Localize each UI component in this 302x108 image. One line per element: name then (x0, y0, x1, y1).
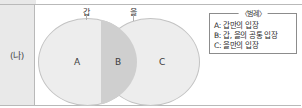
venn-diagram-screenshot: (나) A B C 갑 을 〈범례〉 A: 갑만의 입장 B: 갑, 을의 공통… (0, 0, 302, 108)
row-header-label: (나) (10, 49, 24, 62)
region-label-c: C (159, 57, 165, 67)
region-label-b: B (115, 57, 121, 67)
row-header-cell: (나) (0, 5, 35, 105)
legend-item: A: 갑만의 입장 (214, 21, 293, 31)
legend-item: B: 갑, 을의 공통 입장 (214, 31, 293, 41)
legend-item-text: 갑만의 입장 (223, 21, 293, 31)
region-label-a: A (74, 57, 80, 67)
legend-item-key: B: (214, 31, 223, 41)
leader-line-gap (86, 15, 87, 20)
legend-item-text: 을만의 입장 (223, 41, 293, 51)
legend-item-key: C: (214, 41, 223, 51)
legend-item-list: A: 갑만의 입장 B: 갑, 을의 공통 입장 C: 을만의 입장 (214, 21, 293, 51)
legend-title: 〈범례〉 (239, 8, 268, 18)
leader-line-eul (133, 15, 134, 21)
venn-area: A B C 갑 을 〈범례〉 A: 갑만의 입장 B: 갑, 을의 공통 입장 … (36, 5, 302, 105)
legend-item: C: 을만의 입장 (214, 41, 293, 51)
legend-box: 〈범례〉 A: 갑만의 입장 B: 갑, 을의 공통 입장 C: 을만의 입장 (209, 13, 297, 54)
legend-item-text: 갑, 을의 공통 입장 (223, 31, 293, 41)
legend-item-key: A: (214, 21, 223, 31)
